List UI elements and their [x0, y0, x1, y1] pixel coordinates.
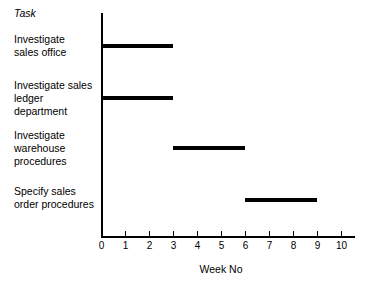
x-tick-8 [293, 231, 294, 236]
gantt-bar-1 [101, 96, 173, 100]
task-label-0: Investigate sales office [14, 33, 100, 59]
x-tick-label-5: 5 [219, 240, 225, 252]
x-tick-label-7: 7 [267, 240, 273, 252]
x-tick-4 [197, 231, 198, 236]
x-tick-label-10: 10 [336, 240, 347, 252]
x-tick-1 [125, 231, 126, 236]
gantt-bar-0 [101, 44, 173, 48]
task-label-3: Specify sales order procedures [14, 185, 100, 211]
x-tick-9 [317, 231, 318, 236]
x-tick-label-1: 1 [123, 240, 129, 252]
x-tick-label-2: 2 [147, 240, 153, 252]
x-tick-5 [221, 231, 222, 236]
x-tick-6 [245, 231, 246, 236]
x-axis-line [101, 236, 355, 238]
task-label-2: Investigate warehouse procedures [14, 129, 100, 169]
x-tick-2 [149, 231, 150, 236]
gantt-bar-2 [173, 146, 245, 150]
task-label-1: Investigate sales ledger department [14, 79, 100, 119]
x-tick-label-8: 8 [291, 240, 297, 252]
task-column-header: Task [14, 7, 36, 20]
x-tick-label-3: 3 [171, 240, 177, 252]
x-axis-title: Week No [101, 263, 341, 275]
x-tick-7 [269, 231, 270, 236]
gantt-bar-3 [245, 198, 317, 202]
x-tick-label-4: 4 [195, 240, 201, 252]
x-tick-label-6: 6 [243, 240, 249, 252]
x-tick-10 [341, 231, 342, 236]
x-tick-0 [101, 231, 102, 236]
x-tick-label-9: 9 [315, 240, 321, 252]
x-tick-label-0: 0 [99, 240, 105, 252]
x-tick-3 [173, 231, 174, 236]
gantt-chart: Task Investigate sales officeInvestigate… [0, 0, 384, 286]
